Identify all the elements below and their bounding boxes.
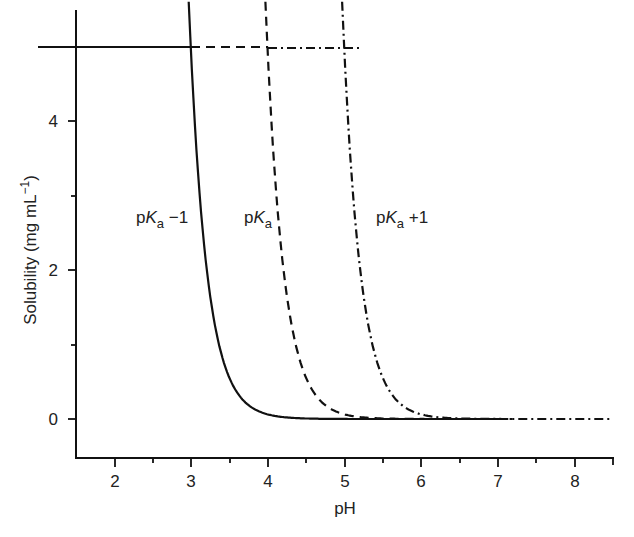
y-tick-label: 0 <box>49 410 58 429</box>
x-ticks <box>115 458 613 467</box>
x-tick-label: 7 <box>493 472 502 491</box>
x-axis-title: pH <box>334 499 356 518</box>
label-pka-plus-1: pKa +1 <box>376 208 428 231</box>
x-tick-label: 2 <box>110 472 119 491</box>
y-tick-label: 2 <box>49 261 58 280</box>
x-tick-label: 4 <box>263 472 272 491</box>
solubility-chart: 0 2 4 2 3 4 5 6 7 8 pH Solubility (mg mL… <box>0 0 634 537</box>
label-pka-minus-1: pKa −1 <box>136 208 188 231</box>
x-tick-label: 6 <box>416 472 425 491</box>
y-ticks <box>68 121 76 419</box>
curve-pka-minus-1 <box>189 2 497 419</box>
y-tick-label: 4 <box>49 112 58 131</box>
x-tick-label: 5 <box>340 472 349 491</box>
x-tick-label: 3 <box>186 472 195 491</box>
x-tick-label: 8 <box>570 472 579 491</box>
label-pka: pKa <box>244 208 273 231</box>
y-axis-title: Solubility (mg mL−1) <box>18 175 40 325</box>
